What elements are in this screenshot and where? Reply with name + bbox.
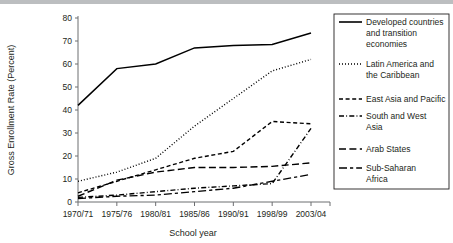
y-tick-label: 40 bbox=[63, 105, 73, 115]
legend-label-2: East Asia and Pacific bbox=[366, 94, 446, 104]
chart-legend: Developed countriesand transitioneconomi… bbox=[334, 14, 449, 189]
y-axis: 01020304050607080 bbox=[63, 13, 78, 207]
x-tick-label: 1990/91 bbox=[218, 209, 249, 219]
series-line-3 bbox=[78, 128, 311, 197]
x-tick-label: 1970/71 bbox=[63, 209, 94, 219]
gross-enrollment-rate-line-chart: 01020304050607080 1970/711975/761980/811… bbox=[0, 0, 453, 243]
chart-container: 01020304050607080 1970/711975/761980/811… bbox=[0, 0, 453, 243]
legend-label-0: Developed countries bbox=[366, 17, 444, 27]
y-tick-label: 60 bbox=[63, 59, 73, 69]
legend-label-5: Africa bbox=[366, 174, 388, 184]
legend-label-3: South and West bbox=[366, 111, 427, 121]
y-tick-label: 50 bbox=[63, 82, 73, 92]
series-lines bbox=[78, 33, 311, 199]
y-tick-label: 30 bbox=[63, 128, 73, 138]
x-axis-title: School year bbox=[169, 228, 217, 238]
legend-label-0: economies bbox=[366, 39, 407, 49]
legend-label-3: Asia bbox=[366, 122, 383, 132]
legend-label-1: the Caribbean bbox=[366, 70, 420, 80]
y-tick-label: 70 bbox=[63, 36, 73, 46]
y-tick-label: 0 bbox=[67, 197, 72, 207]
y-tick-label: 10 bbox=[63, 174, 73, 184]
series-line-1 bbox=[78, 59, 311, 181]
x-tick-label: 1980/81 bbox=[140, 209, 171, 219]
x-tick-label: 1975/76 bbox=[101, 209, 132, 219]
x-axis: 1970/711975/761980/811985/861990/911998/… bbox=[63, 202, 330, 219]
x-tick-label: 1998/99 bbox=[257, 209, 288, 219]
y-tick-label: 20 bbox=[63, 151, 73, 161]
x-tick-label: 2003/04 bbox=[296, 209, 327, 219]
legend-label-1: Latin America and bbox=[366, 59, 434, 69]
legend-label-4: Arab States bbox=[366, 144, 410, 154]
top-divider-bar bbox=[0, 0, 453, 4]
y-tick-label: 80 bbox=[63, 13, 73, 23]
legend-label-5: Sub-Saharan bbox=[366, 163, 416, 173]
x-tick-label: 1985/86 bbox=[179, 209, 210, 219]
y-axis-title: Gross Enrollment Rate (Percent) bbox=[6, 45, 16, 176]
legend-label-0: and transition bbox=[366, 28, 417, 38]
